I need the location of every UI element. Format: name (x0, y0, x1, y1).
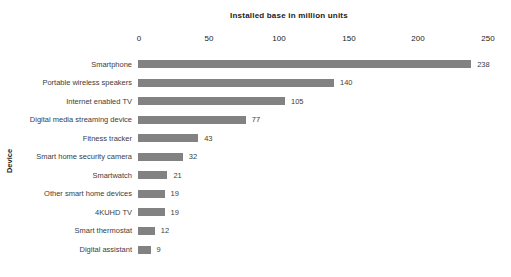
category-label: Smartphone (0, 60, 138, 69)
bar-row: Internet enabled TV105 (0, 92, 511, 111)
bar (138, 190, 165, 198)
plot-area: Smartphone238Portable wireless speakers1… (0, 55, 511, 259)
category-label: Smartwatch (0, 171, 138, 180)
category-label: Internet enabled TV (0, 97, 138, 106)
category-label: Portable wireless speakers (0, 78, 138, 87)
value-label: 238 (477, 60, 490, 69)
value-label: 32 (189, 152, 197, 161)
value-label: 9 (157, 245, 161, 254)
x-axis-title: Installed base in million units (139, 11, 439, 20)
bar-row: Other smart home devices19 (0, 185, 511, 204)
value-label: 19 (171, 208, 179, 217)
category-label: 4KUHD TV (0, 208, 138, 217)
x-axis-tick: 100 (264, 34, 294, 43)
value-label: 19 (171, 189, 179, 198)
category-label: Fitness tracker (0, 134, 138, 143)
category-label: Digital media streaming device (0, 115, 138, 124)
bar (138, 79, 334, 87)
bar (138, 116, 246, 124)
bar-row: Smart home security camera32 (0, 148, 511, 167)
x-axis-tick: 150 (334, 34, 364, 43)
bar (138, 97, 285, 105)
bar (138, 134, 198, 142)
value-label: 12 (161, 226, 169, 235)
bar (138, 208, 165, 216)
category-label: Digital assistant (0, 245, 138, 254)
value-label: 140 (340, 78, 353, 87)
value-label: 77 (252, 115, 260, 124)
category-label: Other smart home devices (0, 189, 138, 198)
bar-row: Smartwatch21 (0, 166, 511, 185)
x-axis-tick: 250 (473, 34, 503, 43)
value-label: 43 (204, 134, 212, 143)
bar-row: 4KUHD TV19 (0, 203, 511, 222)
category-label: Smart home security camera (0, 152, 138, 161)
bar (138, 171, 167, 179)
x-axis-tick: 200 (403, 34, 433, 43)
bar-row: Portable wireless speakers140 (0, 73, 511, 92)
bar (138, 60, 471, 68)
bar-chart: Installed base in million units 0 50 100… (0, 0, 511, 277)
value-label: 105 (291, 97, 304, 106)
bar-row: Smart thermostat12 (0, 222, 511, 241)
x-axis-ticks: 0 50 100 150 200 250 (0, 34, 511, 44)
bar (138, 227, 155, 235)
x-axis-tick: 50 (194, 34, 224, 43)
bar (138, 246, 151, 254)
value-label: 21 (173, 171, 181, 180)
bar-row: Fitness tracker43 (0, 129, 511, 148)
bar-row: Smartphone238 (0, 55, 511, 74)
category-label: Smart thermostat (0, 226, 138, 235)
bar (138, 153, 183, 161)
bar-row: Digital media streaming device77 (0, 110, 511, 129)
x-axis-tick: 0 (124, 34, 154, 43)
bar-row: Digital assistant9 (0, 240, 511, 259)
